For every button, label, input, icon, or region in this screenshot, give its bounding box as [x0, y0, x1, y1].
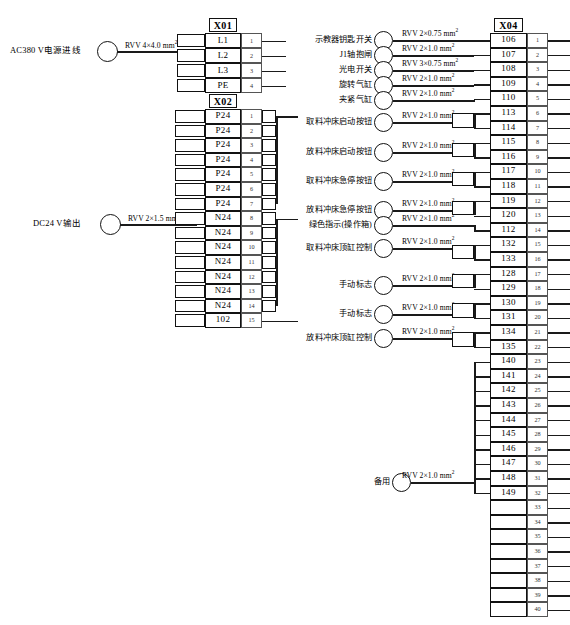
- terminal-tag[interactable]: 131: [490, 310, 527, 325]
- terminal-wire-stub: [548, 245, 570, 247]
- terminal-wire-stub: [548, 332, 570, 334]
- terminal-tag[interactable]: 148: [490, 471, 527, 486]
- terminal-tag[interactable]: 113: [490, 106, 527, 121]
- terminal-wire-stub: [548, 216, 570, 218]
- terminal-wire-stub: [548, 362, 570, 364]
- terminal-wire-stub: [548, 303, 570, 305]
- terminal-tag[interactable]: 107: [490, 48, 527, 63]
- terminal-tag[interactable]: 142: [490, 383, 527, 398]
- terminal-number: 16: [527, 252, 548, 267]
- terminal-number: 9: [527, 150, 548, 165]
- terminal-wire-stub: [548, 391, 570, 393]
- terminal-number: 4: [527, 77, 548, 92]
- terminal-tag[interactable]: [490, 588, 527, 603]
- terminal-wire-stub: [548, 70, 570, 72]
- terminal-tag[interactable]: 118: [490, 179, 527, 194]
- terminal-tag[interactable]: 145: [490, 427, 527, 442]
- terminal-number: 1: [527, 33, 548, 48]
- terminal-number: 14: [527, 223, 548, 238]
- terminal-tag[interactable]: 120: [490, 208, 527, 223]
- terminal-wire-stub: [548, 113, 570, 115]
- terminal-number: 19: [527, 296, 548, 311]
- terminal-tag[interactable]: 106: [490, 33, 527, 48]
- terminal-tag[interactable]: 146: [490, 442, 527, 457]
- terminal-number: 13: [527, 208, 548, 223]
- terminal-tag[interactable]: 134: [490, 325, 527, 340]
- terminal-number: 33: [527, 500, 548, 515]
- terminal-tag[interactable]: [490, 573, 527, 588]
- terminal-wire-stub: [548, 289, 570, 291]
- terminal-tag[interactable]: 110: [490, 91, 527, 106]
- terminal-tag[interactable]: 140: [490, 354, 527, 369]
- terminal-tag[interactable]: 135: [490, 340, 527, 355]
- terminal-wire-stub: [548, 55, 570, 57]
- terminal-number: 39: [527, 588, 548, 603]
- terminal-number: 22: [527, 340, 548, 355]
- terminal-tag[interactable]: 144: [490, 413, 527, 428]
- terminal-wire-stub: [548, 99, 570, 101]
- terminal-tag[interactable]: [490, 500, 527, 515]
- terminal-wire-stub: [548, 376, 570, 378]
- terminal-number: 10: [527, 164, 548, 179]
- terminal-tag[interactable]: 128: [490, 267, 527, 282]
- terminal-wire-stub: [548, 435, 570, 437]
- terminal-tag[interactable]: [490, 559, 527, 574]
- terminal-wire-stub: [548, 172, 570, 174]
- terminal-number: 29: [527, 442, 548, 457]
- terminal-tag[interactable]: [490, 529, 527, 544]
- terminal-wire-stub: [548, 566, 570, 568]
- terminal-number: 28: [527, 427, 548, 442]
- terminal-tag[interactable]: 117: [490, 164, 527, 179]
- terminal-tag[interactable]: 116: [490, 150, 527, 165]
- terminal-tag[interactable]: 132: [490, 237, 527, 252]
- terminal-wire-stub: [548, 551, 570, 553]
- terminal-tag[interactable]: 133: [490, 252, 527, 267]
- terminal-tag[interactable]: 129: [490, 281, 527, 296]
- terminal-tag[interactable]: 108: [490, 62, 527, 77]
- terminal-wire-stub: [548, 522, 570, 524]
- terminal-tag[interactable]: 149: [490, 486, 527, 501]
- terminal-wire-stub: [548, 230, 570, 232]
- terminal-tag[interactable]: 114: [490, 121, 527, 136]
- terminal-wire-stub: [548, 595, 570, 597]
- terminal-number: 2: [527, 48, 548, 63]
- terminal-tag[interactable]: 109: [490, 77, 527, 92]
- terminal-number: 34: [527, 515, 548, 530]
- terminal-tag[interactable]: [490, 515, 527, 530]
- terminal-wire-stub: [548, 84, 570, 86]
- terminal-wire-stub: [548, 478, 570, 480]
- terminal-number: 20: [527, 310, 548, 325]
- terminal-tag[interactable]: 119: [490, 194, 527, 209]
- terminal-number: 37: [527, 559, 548, 574]
- terminal-wire-stub: [548, 581, 570, 583]
- terminal-tag[interactable]: [490, 544, 527, 559]
- terminal-number: 36: [527, 544, 548, 559]
- terminal-wire-stub: [548, 347, 570, 349]
- terminal-tag[interactable]: 112: [490, 223, 527, 238]
- terminal-number: 31: [527, 471, 548, 486]
- terminal-wire-stub: [548, 259, 570, 261]
- terminal-wire-stub: [548, 508, 570, 510]
- terminal-wire-stub: [548, 201, 570, 203]
- terminal-wire-stub: [548, 449, 570, 451]
- terminal-wire-stub: [548, 128, 570, 130]
- terminal-wire-stub: [548, 537, 570, 539]
- terminal-wire-stub: [548, 186, 570, 188]
- terminal-number: 21: [527, 325, 548, 340]
- terminal-tag[interactable]: [490, 602, 527, 617]
- terminal-tag[interactable]: 130: [490, 296, 527, 311]
- terminal-tag[interactable]: 141: [490, 369, 527, 384]
- terminal-number: 7: [527, 121, 548, 136]
- terminal-tag[interactable]: 147: [490, 456, 527, 471]
- terminal-tag[interactable]: 143: [490, 398, 527, 413]
- terminal-number: 3: [527, 62, 548, 77]
- terminal-number: 15: [527, 237, 548, 252]
- terminal-wire-stub: [548, 464, 570, 466]
- terminal-tag[interactable]: 115: [490, 135, 527, 150]
- terminal-wire-stub: [548, 420, 570, 422]
- terminal-number: 18: [527, 281, 548, 296]
- terminal-number: 6: [527, 106, 548, 121]
- terminal-wire-stub: [548, 274, 570, 276]
